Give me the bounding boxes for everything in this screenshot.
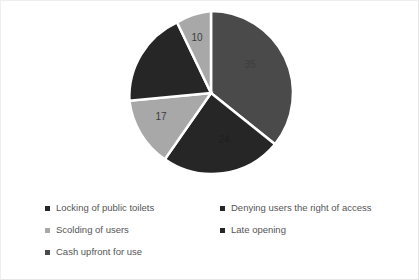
legend-item-late-opening[interactable]: Late opening bbox=[220, 219, 395, 241]
chart-container: 35 24 17 10 Locking of public toilets De… bbox=[0, 0, 419, 280]
legend-swatch-icon bbox=[45, 250, 50, 255]
legend-label: Late opening bbox=[231, 225, 286, 235]
legend-label: Scolding of users bbox=[56, 225, 129, 235]
data-label-locking-of-public-toilets: 10 bbox=[191, 32, 203, 43]
pie-slices bbox=[129, 11, 293, 174]
chart-legend: Locking of public toilets Denying users … bbox=[45, 197, 395, 263]
legend-item-cash-upfront-for-use[interactable]: Cash upfront for use bbox=[45, 241, 220, 263]
data-label-scolding-of-users: 17 bbox=[155, 111, 167, 122]
legend-swatch-icon bbox=[220, 228, 225, 233]
pie-chart: 35 24 17 10 bbox=[111, 7, 311, 179]
legend-label: Cash upfront for use bbox=[56, 247, 142, 257]
legend-swatch-icon bbox=[45, 228, 50, 233]
data-label-late-opening: 24 bbox=[218, 134, 230, 145]
data-label-denying-users: 35 bbox=[244, 59, 256, 70]
legend-swatch-icon bbox=[45, 206, 50, 211]
legend-item-locking-of-public-toilets[interactable]: Locking of public toilets bbox=[45, 197, 220, 219]
pie-plot-area: 35 24 17 10 bbox=[1, 7, 419, 187]
legend-item-scolding-of-users[interactable]: Scolding of users bbox=[45, 219, 220, 241]
legend-label: Denying users the right of access bbox=[231, 203, 371, 213]
legend-label: Locking of public toilets bbox=[56, 203, 154, 213]
legend-item-denying-users-the-right-of-access[interactable]: Denying users the right of access bbox=[220, 197, 395, 219]
legend-swatch-icon bbox=[220, 206, 225, 211]
